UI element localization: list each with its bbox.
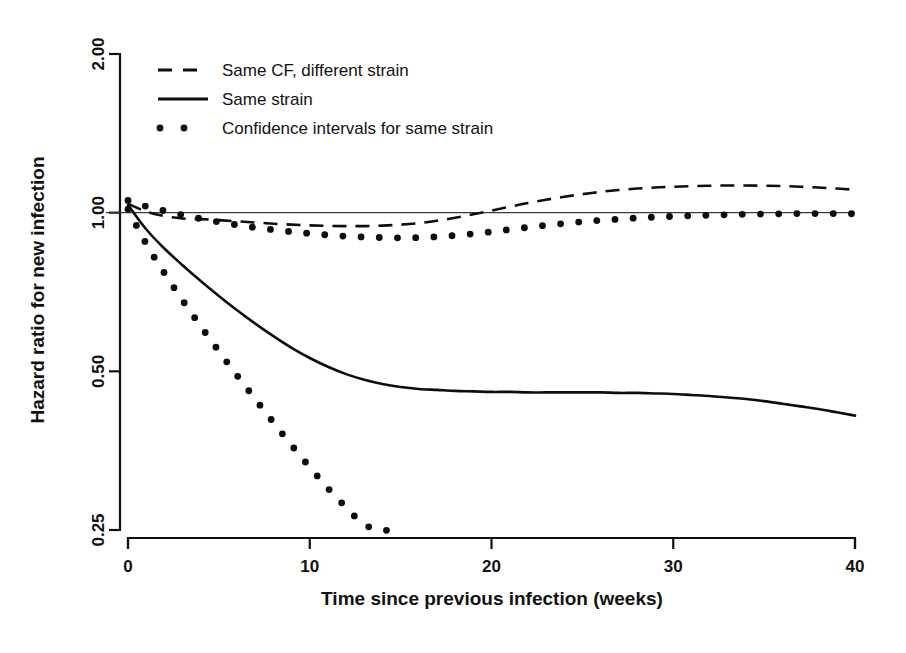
dotted-point-1 [142, 203, 149, 210]
y-tick-label-0: 2.00 [89, 37, 108, 70]
dotted-point-9 [285, 228, 292, 235]
dotted-point-15 [394, 234, 401, 241]
figure-container: 2.001.000.500.25 010203040 Same CF, diff… [0, 0, 906, 653]
x-tick-label-1: 10 [300, 557, 319, 576]
dotted-point-13 [257, 402, 264, 409]
dotted-point-4 [195, 215, 202, 222]
legend-entry-1: Same strain [158, 90, 313, 109]
dotted-point-0 [125, 206, 132, 213]
dotted-point-38 [812, 210, 819, 217]
dotted-point-19 [326, 486, 333, 493]
x-tick-label-2: 20 [482, 557, 501, 576]
dotted-point-10 [223, 358, 230, 365]
dotted-point-5 [171, 284, 178, 291]
dotted-point-20 [338, 499, 345, 506]
dotted-point-6 [181, 299, 188, 306]
dotted-point-36 [775, 210, 782, 217]
dotted-point-16 [412, 234, 419, 241]
dotted-point-8 [202, 329, 209, 336]
dotted-point-26 [593, 217, 600, 224]
dashed-curve [128, 185, 855, 226]
dotted-point-15 [279, 430, 286, 437]
dotted-point-13 [358, 234, 365, 241]
dotted-point-2 [160, 207, 167, 214]
x-tick-label-0: 0 [123, 557, 132, 576]
y-axis-spine [109, 54, 120, 530]
dotted-point-39 [830, 210, 837, 217]
dotted-point-18 [314, 473, 321, 480]
dotted-point-34 [739, 211, 746, 218]
dotted-point-3 [177, 211, 184, 218]
data-series-layer [125, 185, 855, 533]
y-axis-tick-labels: 2.001.000.500.25 [89, 37, 108, 546]
series-3 [125, 206, 390, 534]
dotted-point-25 [575, 219, 582, 226]
legend-label-0: Same CF, different strain [222, 61, 409, 80]
dotted-point-7 [191, 314, 198, 321]
dotted-point-8 [267, 226, 274, 233]
dotted-point-37 [793, 210, 800, 217]
dotted-point-14 [268, 416, 275, 423]
y-tick-label-3: 0.25 [89, 513, 108, 546]
dotted-point-7 [249, 224, 256, 231]
series-2 [125, 197, 855, 241]
x-axis-ticks [128, 538, 855, 549]
dotted-point-23 [539, 222, 546, 229]
dotted-point-12 [245, 387, 252, 394]
dotted-point-40 [848, 210, 855, 217]
dotted-point-31 [684, 212, 691, 219]
dotted-point-19 [467, 231, 474, 238]
y-axis-ticks [109, 54, 120, 530]
x-tick-label-4: 40 [846, 557, 865, 576]
dotted-point-14 [376, 234, 383, 241]
dotted-point-12 [340, 233, 347, 240]
dotted-point-2 [142, 238, 149, 245]
dotted-point-11 [234, 373, 241, 380]
dotted-point-5 [213, 218, 220, 225]
dotted-point-1 [133, 222, 140, 229]
dotted-point-3 [151, 254, 158, 261]
dotted-point-10 [303, 230, 310, 237]
dotted-point-6 [231, 221, 238, 228]
dotted-point-21 [503, 227, 510, 234]
dotted-point-0 [125, 197, 132, 204]
dotted-point-20 [485, 229, 492, 236]
chart-legend: Same CF, different strainSame strainConf… [157, 61, 494, 138]
dotted-point-4 [161, 269, 168, 276]
series-0 [128, 185, 855, 226]
dotted-point-23 [383, 527, 390, 534]
series-1 [128, 205, 855, 416]
dotted-point-24 [557, 220, 564, 227]
dotted-point-16 [290, 445, 297, 452]
legend-entry-0: Same CF, different strain [158, 61, 409, 80]
dotted-point-28 [630, 215, 637, 222]
solid-curve [128, 205, 855, 416]
dotted-point-22 [365, 523, 372, 530]
dotted-point-32 [702, 212, 709, 219]
x-tick-label-3: 30 [664, 557, 683, 576]
y-tick-label-2: 0.50 [89, 355, 108, 388]
dotted-point-17 [430, 234, 437, 241]
hazard-ratio-chart: 2.001.000.500.25 010203040 Same CF, diff… [0, 0, 906, 653]
legend-label-2: Confidence intervals for same strain [222, 119, 493, 138]
legend-swatch-dotted-1 [181, 125, 188, 132]
dotted-point-22 [521, 224, 528, 231]
dotted-point-18 [449, 232, 456, 239]
x-axis-title: Time since previous infection (weeks) [321, 588, 663, 609]
dotted-point-27 [612, 216, 619, 223]
legend-entry-2: Confidence intervals for same strain [157, 119, 494, 138]
x-axis-tick-labels: 010203040 [123, 557, 864, 576]
y-axis-title: Hazard ratio for new infection [27, 156, 48, 423]
dotted-point-35 [757, 211, 764, 218]
dotted-point-17 [302, 459, 309, 466]
dotted-point-29 [648, 214, 655, 221]
y-tick-label-1: 1.00 [89, 196, 108, 229]
dotted-point-11 [321, 231, 328, 238]
dotted-point-21 [351, 513, 358, 520]
dotted-point-33 [721, 211, 728, 218]
legend-label-1: Same strain [222, 90, 313, 109]
dotted-point-30 [666, 213, 673, 220]
legend-swatch-dotted-0 [157, 125, 164, 132]
dotted-point-9 [213, 344, 220, 351]
